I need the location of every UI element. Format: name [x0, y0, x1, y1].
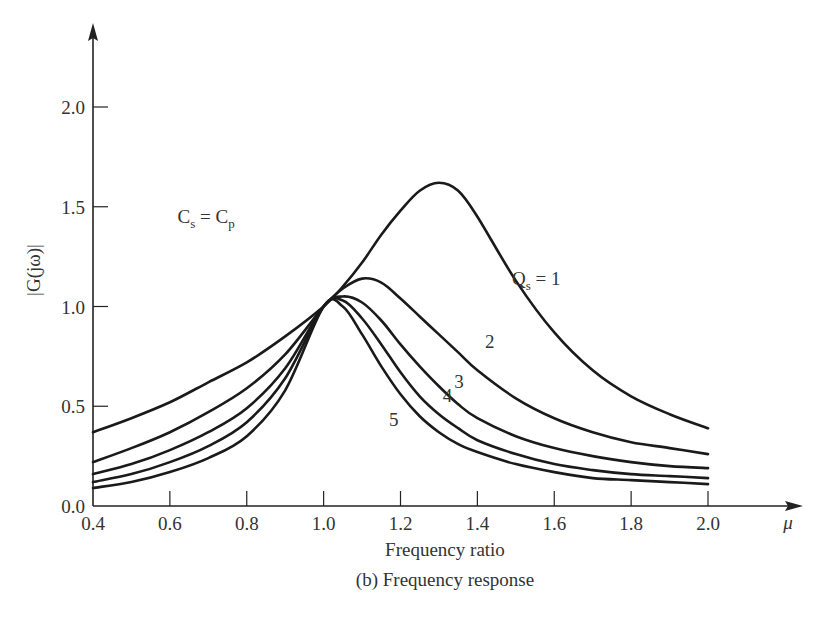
x-tick-label: 2.0 — [696, 513, 720, 534]
curves — [93, 183, 708, 488]
y-tick-label: 0.5 — [61, 396, 85, 417]
frequency-response-chart: 0.40.60.81.01.21.41.61.82.00.00.51.01.52… — [0, 0, 824, 623]
x-tick-label: 1.8 — [619, 513, 643, 534]
axes: 0.40.60.81.01.21.41.61.82.00.00.51.01.52… — [61, 23, 803, 534]
x-axis-symbol: μ — [782, 512, 793, 533]
curve-q3 — [93, 296, 708, 474]
curve-q4 — [93, 298, 708, 482]
figure-caption: (b) Frequency response — [356, 569, 534, 591]
x-tick-label: 0.8 — [235, 513, 259, 534]
y-tick-label: 0.0 — [61, 496, 85, 517]
x-axis-title: Frequency ratio — [385, 539, 505, 560]
curve-label-2: 2 — [485, 331, 495, 352]
x-tick-label: 1.6 — [542, 513, 566, 534]
annotation-qs-1: Qs = 1 — [512, 268, 561, 293]
y-axis-title: |G(jω)| — [23, 244, 45, 296]
y-tick-label: 2.0 — [61, 97, 85, 118]
annotation-cs-cp: Cs = Cp — [178, 206, 235, 231]
y-tick-label: 1.0 — [61, 297, 85, 318]
curve-label-4: 4 — [443, 385, 453, 406]
x-tick-label: 1.4 — [466, 513, 490, 534]
x-tick-label: 1.2 — [389, 513, 413, 534]
curve-label-3: 3 — [454, 371, 464, 392]
x-tick-label: 0.6 — [158, 513, 182, 534]
curve-label-5: 5 — [389, 409, 399, 430]
x-tick-label: 1.0 — [312, 513, 336, 534]
y-tick-label: 1.5 — [61, 197, 85, 218]
